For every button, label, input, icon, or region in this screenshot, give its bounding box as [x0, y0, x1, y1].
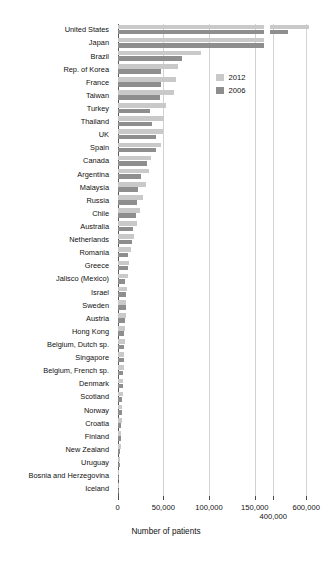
- bar-2012: [118, 51, 201, 56]
- bar-group: [118, 247, 265, 260]
- y-axis-label: Chile: [92, 210, 109, 217]
- x-axis-tick-label: 600,000: [276, 504, 332, 512]
- bar-group: [118, 470, 265, 483]
- bar-2012: [118, 195, 144, 200]
- bar-group: [118, 391, 265, 404]
- bar-group: [118, 37, 265, 50]
- bar-group: [118, 365, 265, 378]
- bar-2012: [118, 38, 265, 43]
- bar-2006: [118, 135, 156, 140]
- bar-2006: [118, 187, 138, 192]
- y-axis-label: Romania: [79, 249, 109, 256]
- bar-group: [118, 352, 265, 365]
- y-axis-label: Thailand: [81, 118, 109, 125]
- bar-group: [118, 142, 265, 155]
- legend-swatch-2006-icon: [216, 87, 224, 95]
- y-axis-label: Iceland: [85, 485, 109, 492]
- bar-2012: [118, 90, 175, 95]
- y-axis-label: Argentina: [77, 171, 109, 178]
- gridline: [273, 24, 274, 496]
- y-axis-label: Belgium, Dutch sp.: [47, 341, 109, 348]
- y-axis-label: Norway: [84, 407, 109, 414]
- bar-2012: [118, 261, 130, 266]
- bar-2012: [118, 379, 124, 384]
- bar-2006: [118, 292, 127, 297]
- bar-group: [118, 234, 265, 247]
- legend-swatch-2012-icon: [216, 74, 224, 82]
- y-axis-label: UK: [99, 131, 109, 138]
- legend-item-2006: 2006: [216, 85, 245, 96]
- bar-group: [118, 221, 265, 234]
- bar-2006: [118, 213, 136, 218]
- bar-2006: [118, 305, 126, 310]
- bar-2012: [118, 352, 125, 357]
- bar-2006: [118, 30, 265, 35]
- bar-2006: [118, 463, 120, 468]
- bar-2012: [118, 64, 178, 69]
- bar-group: [270, 24, 316, 37]
- bar-2006: [118, 95, 160, 100]
- y-axis-label: Israel: [91, 289, 109, 296]
- bar-2006: [118, 331, 125, 336]
- bar-2006: [118, 358, 124, 363]
- bar-group: [118, 273, 265, 286]
- bar-group: [118, 404, 265, 417]
- y-axis-label: Russia: [86, 197, 109, 204]
- bar-2006: [118, 253, 128, 258]
- bar-2012: [118, 169, 149, 174]
- bar-2012: [118, 116, 165, 121]
- chart-container: United StatesJapanBrazilRep. of KoreaFra…: [0, 0, 332, 567]
- bar-2012: [118, 470, 120, 475]
- bar-2012: [118, 208, 141, 213]
- y-axis-label: Bosnia and Herzegovina: [28, 472, 109, 479]
- bar-2012: [118, 365, 124, 370]
- bar-2006: [118, 69, 161, 74]
- legend-label-2012: 2012: [229, 74, 246, 82]
- bar-group: [118, 116, 265, 129]
- bar-2006: [118, 227, 134, 232]
- y-axis-label: Greece: [85, 262, 109, 269]
- bar-2012: [118, 287, 128, 292]
- x-axis-tick: [209, 496, 210, 500]
- bar-2012: [118, 418, 122, 423]
- bar-2012: [118, 182, 146, 187]
- legend-item-2012: 2012: [216, 72, 245, 83]
- y-axis-label: Turkey: [87, 105, 109, 112]
- x-axis-title: Number of patients: [0, 527, 332, 536]
- bar-2006: [118, 279, 126, 284]
- y-axis-label: Canada: [83, 157, 109, 164]
- bar-group: [118, 168, 265, 181]
- y-axis-label: Denmark: [79, 380, 109, 387]
- bar-2012: [118, 221, 137, 226]
- bar-2012: [118, 247, 132, 252]
- y-axis-label: Spain: [90, 144, 109, 151]
- bar-2012: [118, 143, 162, 148]
- bar-2006: [118, 266, 128, 271]
- bar-2006: [118, 174, 142, 179]
- y-axis-label: Hong Kong: [72, 328, 109, 335]
- y-axis-label: Finland: [85, 433, 109, 440]
- bar-group: [118, 299, 265, 312]
- bar-2006: [118, 410, 122, 415]
- bar-2012: [118, 405, 123, 410]
- bar-2012: [118, 274, 129, 279]
- bar-2006: [118, 109, 151, 114]
- bar-group: [118, 457, 265, 470]
- x-axis-tick: [273, 496, 274, 500]
- y-axis-label: Uruguay: [81, 459, 109, 466]
- bar-group: [118, 181, 265, 194]
- bar-group: [118, 417, 265, 430]
- bar-2012: [118, 156, 152, 161]
- bar-2006: [118, 161, 147, 166]
- bar-2006: [118, 122, 153, 127]
- gridline: [306, 24, 307, 496]
- bar-2012: [118, 392, 123, 397]
- bar-2006: [118, 476, 119, 481]
- plot-panel-upper-range: [270, 24, 316, 496]
- bar-group: [118, 444, 265, 457]
- x-axis-tick: [306, 496, 307, 500]
- bar-group: [118, 339, 265, 352]
- y-axis-label: United States: [65, 26, 109, 33]
- bar-2012: [118, 25, 265, 30]
- x-axis-tick-label: 400,000: [243, 513, 303, 521]
